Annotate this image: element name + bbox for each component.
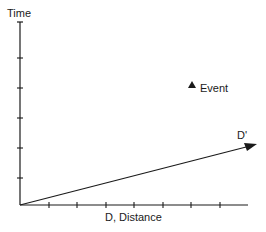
event-triangle-icon: [188, 81, 196, 88]
d-prime-axis: [20, 146, 250, 205]
event-label: Event: [200, 82, 228, 94]
arrowhead-icon: [244, 143, 257, 151]
time-axis-label: Time: [7, 7, 31, 19]
spacetime-diagram: Time Event D' D, Distance: [0, 0, 266, 232]
d-prime-label: D': [237, 129, 247, 141]
distance-axis-label: D, Distance: [105, 211, 162, 223]
